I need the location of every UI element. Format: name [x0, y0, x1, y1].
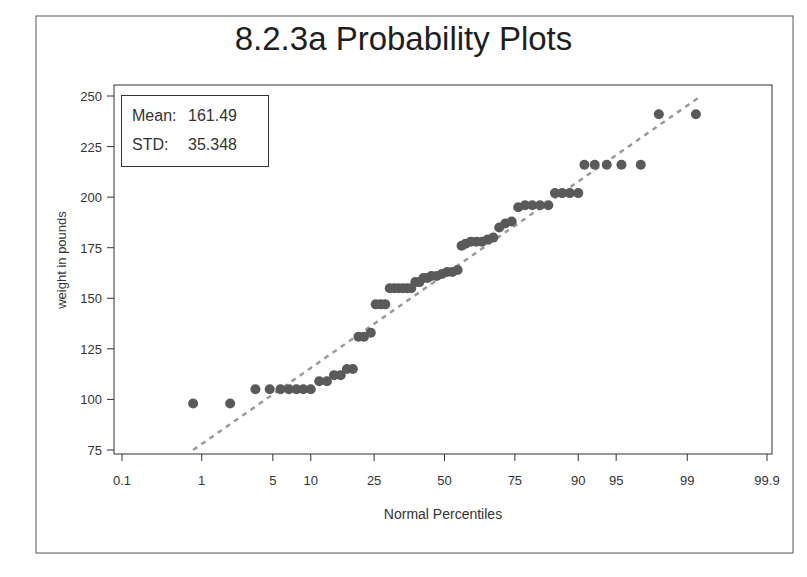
mean-value: 161.49: [188, 107, 237, 124]
y-tick-label: 250: [80, 89, 102, 104]
std-row: STD:35.348: [132, 136, 237, 154]
data-point: [250, 384, 260, 394]
x-tick-label: 50: [437, 473, 451, 488]
x-tick-label: 95: [609, 473, 623, 488]
x-tick-label: 1: [198, 473, 205, 488]
data-point: [453, 265, 463, 275]
data-point: [380, 299, 390, 309]
chart-canvas: 75100125150175200225250 0.11510255075909…: [0, 0, 807, 577]
data-point: [265, 384, 275, 394]
data-point: [579, 160, 589, 170]
y-tick-label: 225: [80, 140, 102, 155]
std-label: STD:: [132, 136, 188, 154]
data-point: [636, 160, 646, 170]
x-tick-label: 99: [680, 473, 694, 488]
mean-label: Mean:: [132, 107, 188, 125]
x-axis: 0.1151025507590959999.9: [113, 454, 780, 488]
y-tick-label: 125: [80, 342, 102, 357]
x-tick-label: 10: [304, 473, 318, 488]
y-tick-label: 200: [80, 190, 102, 205]
data-point: [507, 216, 517, 226]
data-point: [543, 200, 553, 210]
x-tick-label: 75: [508, 473, 522, 488]
data-point: [488, 233, 498, 243]
data-point: [348, 364, 358, 374]
data-point: [654, 109, 664, 119]
data-point: [188, 398, 198, 408]
x-tick-label: 25: [367, 473, 381, 488]
y-tick-label: 150: [80, 291, 102, 306]
y-tick-label: 100: [80, 392, 102, 407]
data-point: [225, 398, 235, 408]
data-point: [366, 328, 376, 338]
y-axis: 75100125150175200225250: [80, 89, 114, 458]
data-point: [691, 109, 701, 119]
x-tick-label: 5: [269, 473, 276, 488]
y-axis-label: weight in pounds: [54, 211, 69, 309]
data-point: [590, 160, 600, 170]
data-point: [306, 384, 316, 394]
data-point: [616, 160, 626, 170]
x-tick-label: 0.1: [113, 473, 131, 488]
x-tick-label: 99.9: [754, 473, 779, 488]
mean-row: Mean:161.49: [132, 107, 237, 125]
data-point: [602, 160, 612, 170]
data-point: [573, 188, 583, 198]
stats-box: Mean:161.49 STD:35.348: [121, 95, 269, 167]
y-tick-label: 175: [80, 241, 102, 256]
y-tick-label: 75: [88, 443, 102, 458]
x-axis-label: Normal Percentiles: [384, 506, 502, 522]
x-tick-label: 90: [571, 473, 585, 488]
std-value: 35.348: [188, 136, 237, 153]
